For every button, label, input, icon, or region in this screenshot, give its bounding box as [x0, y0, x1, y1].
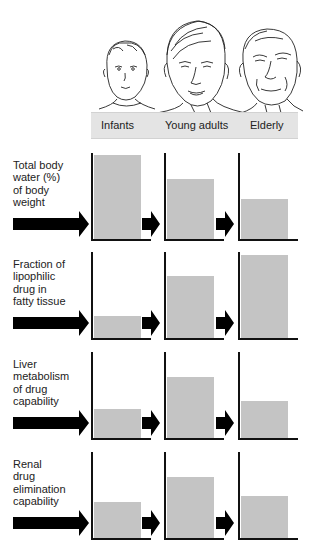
small-arrow-icon	[142, 310, 160, 336]
bar	[94, 316, 141, 338]
metric-label-line: Fraction of	[13, 258, 93, 270]
bar	[167, 276, 214, 338]
x-axis-line	[164, 239, 224, 241]
x-axis-line	[91, 239, 151, 241]
metric-label-line: lipophilic	[13, 270, 93, 282]
metric-label: Renaldrugeliminationcapability	[13, 458, 93, 507]
y-axis-line	[91, 153, 93, 241]
metric-row: Total bodywater (%)of bodyweight	[0, 153, 310, 245]
bar	[167, 477, 214, 538]
metric-label-line: of drug	[13, 383, 93, 395]
age-group-header-band: Infants Young adults Elderly	[91, 112, 298, 139]
metric-row: Livermetabolismof drugcapability	[0, 352, 310, 444]
metric-label-line: Renal	[13, 458, 93, 470]
x-axis-line	[164, 338, 224, 340]
bar	[241, 199, 288, 239]
metric-label: Total bodywater (%)of bodyweight	[13, 159, 93, 208]
group-label-elderly: Elderly	[250, 119, 284, 131]
metric-label-line: water (%)	[13, 171, 93, 183]
young-adult-face-icon	[157, 21, 245, 113]
metric-label-line: metabolism	[13, 370, 93, 382]
metric-label-line: Liver	[13, 358, 93, 370]
small-arrow-icon	[216, 510, 234, 536]
metric-row: Renaldrugeliminationcapability	[0, 452, 310, 544]
elderly-face-icon	[239, 29, 303, 113]
infant-face-icon	[99, 41, 155, 109]
bar	[241, 255, 288, 338]
small-arrow-icon	[142, 410, 160, 436]
big-arrow-icon	[13, 211, 89, 237]
group-label-young-adults: Young adults	[165, 119, 228, 131]
bar	[94, 409, 141, 438]
bar	[167, 179, 214, 239]
bar-panel	[238, 452, 300, 540]
bar-panel	[238, 252, 300, 340]
x-axis-line	[91, 438, 151, 440]
metric-row: Fraction oflipophilicdrug infatty tissue	[0, 252, 310, 344]
small-arrow-icon	[142, 211, 160, 237]
age-group-faces-illustration	[95, 5, 305, 113]
y-axis-line	[164, 252, 166, 340]
y-axis-line	[91, 252, 93, 340]
metric-label-line: drug	[13, 470, 93, 482]
metric-label-line: weight	[13, 196, 93, 208]
metric-label: Fraction oflipophilicdrug infatty tissue	[13, 258, 93, 307]
x-axis-line	[164, 438, 224, 440]
y-axis-line	[238, 452, 240, 540]
bar	[241, 401, 288, 438]
x-axis-line	[91, 538, 151, 540]
y-axis-line	[238, 153, 240, 241]
y-axis-line	[164, 452, 166, 540]
big-arrow-icon	[13, 310, 89, 336]
x-axis-line	[91, 338, 151, 340]
small-arrow-icon	[216, 310, 234, 336]
big-arrow-icon	[13, 510, 89, 536]
small-arrow-icon	[216, 211, 234, 237]
metric-label-line: capability	[13, 495, 93, 507]
metric-label-line: of body	[13, 184, 93, 196]
y-axis-line	[91, 352, 93, 440]
group-label-infants: Infants	[101, 119, 134, 131]
small-arrow-icon	[216, 410, 234, 436]
big-arrow-icon	[13, 410, 89, 436]
metric-label-line: elimination	[13, 483, 93, 495]
metric-label-line: drug in	[13, 283, 93, 295]
metric-label-line: Total body	[13, 159, 93, 171]
x-axis-line	[238, 438, 298, 440]
x-axis-line	[238, 538, 298, 540]
y-axis-line	[164, 153, 166, 241]
y-axis-line	[238, 352, 240, 440]
y-axis-line	[238, 252, 240, 340]
metric-label-line: fatty tissue	[13, 295, 93, 307]
metric-label-line: capability	[13, 395, 93, 407]
bar-panel	[238, 153, 300, 241]
bar-panel	[238, 352, 300, 440]
y-axis-line	[91, 452, 93, 540]
bar	[94, 502, 141, 538]
bar	[94, 155, 141, 239]
x-axis-line	[238, 239, 298, 241]
x-axis-line	[164, 538, 224, 540]
x-axis-line	[238, 338, 298, 340]
small-arrow-icon	[142, 510, 160, 536]
y-axis-line	[164, 352, 166, 440]
metric-label: Livermetabolismof drugcapability	[13, 358, 93, 407]
bar	[167, 377, 214, 438]
bar	[241, 496, 288, 538]
